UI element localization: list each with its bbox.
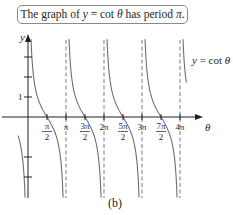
x-tick-label-den: 2 bbox=[83, 132, 88, 142]
x-tick-label-num: π bbox=[45, 121, 50, 131]
x-tick-label-den: 2 bbox=[45, 132, 50, 142]
x-tick-label: 4π bbox=[175, 122, 185, 132]
cot-plot: π2π3π22π5π23π7π24π y 1 θ bbox=[0, 0, 233, 215]
y-tick-label-1: 1 bbox=[18, 92, 23, 102]
curve-label: y = cot θ bbox=[192, 54, 230, 66]
subfigure-label: (b) bbox=[108, 196, 122, 211]
x-tick-label-num: 7π bbox=[156, 121, 166, 131]
y-axis-label: y bbox=[19, 31, 25, 43]
y-axis-arrow-icon bbox=[25, 34, 31, 42]
x-tick-label: π bbox=[64, 122, 69, 132]
curve-label-rest: = cot bbox=[197, 54, 225, 66]
x-axis-label: θ bbox=[205, 121, 211, 133]
x-tick-label-den: 2 bbox=[159, 132, 164, 142]
x-tick-label: 2π bbox=[99, 122, 109, 132]
x-tick-labels: π2π3π22π5π23π7π24π bbox=[42, 121, 185, 142]
cot-branch bbox=[183, 39, 186, 82]
x-axis-arrow-icon bbox=[195, 114, 203, 120]
x-tick-label: 3π bbox=[137, 122, 147, 132]
cot-branch-left bbox=[18, 135, 25, 197]
curve-label-theta: θ bbox=[225, 54, 230, 66]
x-tick-label-num: 5π bbox=[118, 121, 128, 131]
x-tick-label-num: 3π bbox=[80, 121, 90, 131]
x-tick-label-den: 2 bbox=[121, 132, 126, 142]
